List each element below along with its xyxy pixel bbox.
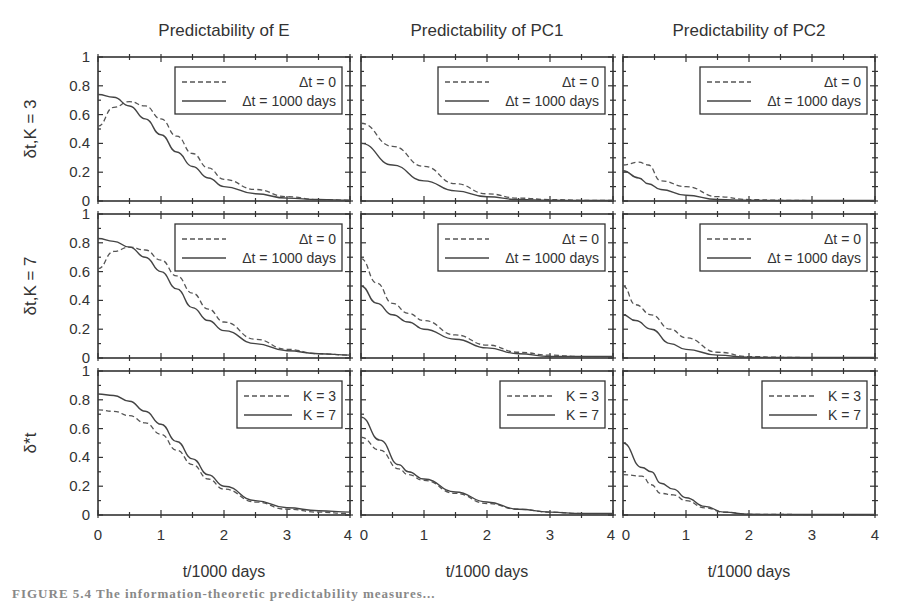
legend-label: Δt = 0 xyxy=(562,74,599,90)
y-tick-label: 1 xyxy=(82,205,90,222)
legend-label: Δt = 1000 days xyxy=(242,250,336,266)
panel-row1-col3: Predictability of PC2Δt = 0Δt = 1000 day… xyxy=(623,21,878,204)
x-tick-label: 2 xyxy=(745,526,753,543)
legend: Δt = 0Δt = 1000 days xyxy=(438,224,605,271)
series-line xyxy=(623,443,875,515)
panel-row3-col2: 01234t/1000 daysK = 3K = 7 xyxy=(360,368,616,580)
y-axis-label: δ*t xyxy=(21,432,40,453)
column-title: Predictability of E xyxy=(158,21,289,40)
x-axis-label: t/1000 days xyxy=(446,563,529,580)
x-tick-label: 4 xyxy=(607,526,615,543)
y-tick-label: 1 xyxy=(82,362,90,379)
x-tick-label: 4 xyxy=(344,526,352,543)
panel-row3-col1: 00.20.40.60.81δ*t01234t/1000 daysK = 3K … xyxy=(21,362,353,580)
legend-label: Δt = 0 xyxy=(562,231,599,247)
y-tick-label: 0.8 xyxy=(69,391,90,408)
y-tick-label: 0.4 xyxy=(69,448,90,465)
legend: K = 3K = 7 xyxy=(237,381,342,428)
legend-label: Δt = 1000 days xyxy=(505,250,599,266)
y-tick-label: 0.4 xyxy=(69,291,90,308)
x-tick-label: 1 xyxy=(420,526,428,543)
legend-label: Δt = 1000 days xyxy=(505,93,599,109)
x-tick-label: 2 xyxy=(220,526,228,543)
series-line xyxy=(623,286,875,358)
x-tick-label: 3 xyxy=(808,526,816,543)
series-line xyxy=(623,162,875,200)
panel-row1-col2: Predictability of PC1Δt = 0Δt = 1000 day… xyxy=(361,21,616,204)
series-line xyxy=(361,123,613,200)
series-line xyxy=(361,259,613,357)
legend-label: K = 3 xyxy=(303,388,336,404)
series-line xyxy=(361,143,613,200)
legend-label: K = 7 xyxy=(828,407,861,423)
legend-label: K = 7 xyxy=(566,407,599,423)
y-tick-label: 1 xyxy=(82,48,90,65)
series-line xyxy=(623,315,875,358)
x-axis-label: t/1000 days xyxy=(708,563,791,580)
legend-label: K = 3 xyxy=(828,388,861,404)
x-tick-label: 3 xyxy=(546,526,554,543)
column-title: Predictability of PC2 xyxy=(672,21,825,40)
legend: Δt = 0Δt = 1000 days xyxy=(700,67,867,114)
legend: Δt = 0Δt = 1000 days xyxy=(438,67,605,114)
y-tick-label: 0.8 xyxy=(69,234,90,251)
y-tick-label: 0.8 xyxy=(69,77,90,94)
legend: Δt = 0Δt = 1000 days xyxy=(175,224,342,271)
x-axis-label: t/1000 days xyxy=(183,563,266,580)
column-title: Predictability of PC1 xyxy=(410,21,563,40)
legend-label: Δt = 1000 days xyxy=(767,93,861,109)
y-tick-label: 0 xyxy=(82,506,90,523)
legend: Δt = 0Δt = 1000 days xyxy=(175,67,342,114)
legend: K = 3K = 7 xyxy=(762,381,867,428)
panel-row1-col1: 00.20.40.60.81δt,K = 3Predictability of … xyxy=(21,21,353,209)
panel-row2-col3: Δt = 0Δt = 1000 days xyxy=(623,211,878,361)
legend-label: Δt = 0 xyxy=(824,231,861,247)
x-tick-label: 0 xyxy=(360,526,368,543)
x-tick-label: 4 xyxy=(871,526,879,543)
legend-label: Δt = 1000 days xyxy=(242,93,336,109)
figure-caption: FIGURE 5.4 The information-theoretic pre… xyxy=(12,586,435,602)
panel-row2-col2: Δt = 0Δt = 1000 days xyxy=(361,211,616,361)
legend-label: K = 3 xyxy=(566,388,599,404)
x-tick-label: 0 xyxy=(94,526,102,543)
series-line xyxy=(361,417,613,513)
x-tick-label: 2 xyxy=(483,526,491,543)
series-line xyxy=(623,475,875,515)
y-tick-label: 0.6 xyxy=(69,106,90,123)
legend: Δt = 0Δt = 1000 days xyxy=(700,224,867,271)
series-line xyxy=(361,286,613,357)
y-tick-label: 0.2 xyxy=(69,320,90,337)
x-tick-label: 1 xyxy=(157,526,165,543)
y-tick-label: 0.4 xyxy=(69,134,90,151)
panel-row2-col1: 00.20.40.60.81δt,K = 7Δt = 0Δt = 1000 da… xyxy=(21,205,353,366)
x-tick-label: 0 xyxy=(622,526,630,543)
series-line xyxy=(98,102,350,201)
x-tick-label: 1 xyxy=(682,526,690,543)
legend: K = 3K = 7 xyxy=(500,381,605,428)
y-tick-label: 0.6 xyxy=(69,263,90,280)
legend-label: Δt = 0 xyxy=(299,74,336,90)
legend-label: Δt = 1000 days xyxy=(767,250,861,266)
legend-label: Δt = 0 xyxy=(299,231,336,247)
legend-label: K = 7 xyxy=(303,407,336,423)
y-axis-label: δt,K = 3 xyxy=(21,99,40,158)
panel-row3-col3: 01234t/1000 daysK = 3K = 7 xyxy=(622,368,879,580)
legend-label: Δt = 0 xyxy=(824,74,861,90)
y-tick-label: 0.2 xyxy=(69,163,90,180)
y-tick-label: 0.2 xyxy=(69,477,90,494)
y-tick-label: 0.6 xyxy=(69,420,90,437)
y-axis-label: δt,K = 7 xyxy=(21,256,40,315)
x-tick-label: 3 xyxy=(283,526,291,543)
